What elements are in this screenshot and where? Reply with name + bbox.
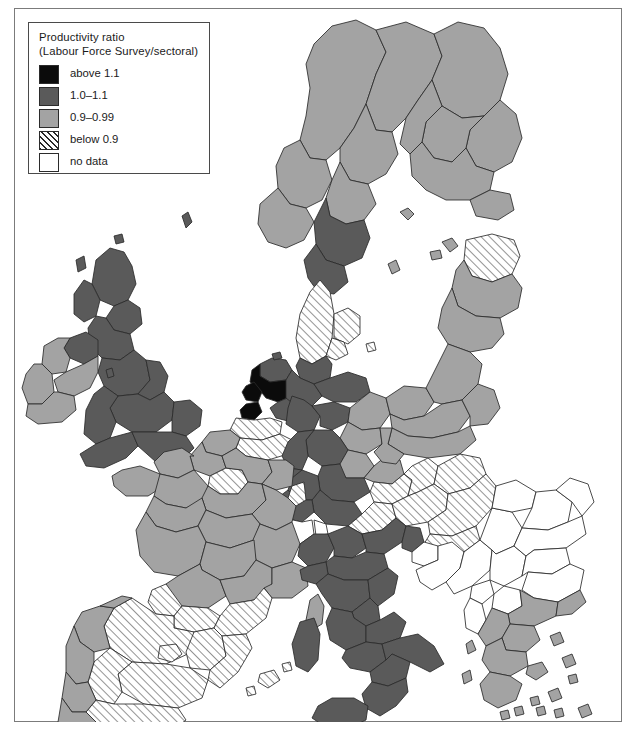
region-greece-island-4 [562, 654, 576, 668]
legend-item-1-0-to-1-1: 1.0–1.1 [39, 85, 207, 107]
legend-item-above-1-1: above 1.1 [39, 63, 207, 85]
region-north-sea-island [272, 352, 282, 360]
region-balearics-menorca [282, 662, 292, 672]
region-shetland [182, 212, 192, 228]
region-greece-island-11 [500, 710, 510, 720]
region-sardinia [292, 618, 320, 672]
region-greece-island-2 [462, 670, 472, 684]
legend-swatch-no-data [39, 153, 59, 172]
legend-label-above-1-1: above 1.1 [70, 68, 120, 79]
region-greece-island-7 [530, 696, 540, 706]
legend-swatch-1-0-to-1-1 [39, 87, 59, 106]
region-balearics-ibiza [246, 686, 256, 696]
region-baltic-islands-2 [430, 250, 442, 260]
legend-item-0-9-to-0-99: 0.9–0.99 [39, 107, 207, 129]
region-sicily [312, 698, 368, 722]
figure-root: Productivity ratio (Labour Force Survey/… [0, 0, 636, 744]
region-wales [84, 386, 118, 444]
legend-label-1-0-to-1-1: 1.0–1.1 [70, 90, 108, 101]
region-greece-island-5 [548, 688, 562, 702]
region-denmark-zealand [334, 308, 360, 344]
region-greece-island-3 [550, 632, 564, 646]
legend-title: Productivity ratio (Labour Force Survey/… [39, 30, 207, 58]
legend-swatch-below-0-9 [39, 131, 59, 150]
legend-label-below-0-9: below 0.9 [70, 134, 118, 145]
region-greece-island-9 [554, 708, 564, 718]
region-greece-island-10 [514, 706, 524, 716]
region-greece-island-1 [466, 640, 476, 654]
region-greece-island-8 [568, 674, 578, 684]
region-orkney [114, 234, 124, 244]
legend-item-no-data: no data [39, 151, 207, 173]
region-balearics-mallorca [258, 670, 280, 688]
map-legend: Productivity ratio (Labour Force Survey/… [28, 22, 210, 174]
region-greece-peloponnese [480, 672, 522, 708]
region-spain-castilla-mancha [118, 662, 208, 708]
region-greece-thessaly [502, 624, 540, 652]
region-aland [400, 208, 414, 220]
legend-item-below-0-9: below 0.9 [39, 129, 207, 151]
region-england-east [172, 400, 202, 436]
region-gotland [388, 260, 400, 274]
region-england-midlands [110, 392, 174, 432]
region-isle-of-man [106, 368, 114, 378]
region-netherlands-zeeland [240, 402, 262, 420]
legend-title-line-1: Productivity ratio [39, 30, 207, 44]
region-hebrides [76, 256, 86, 272]
legend-label-0-9-to-0-99: 0.9–0.99 [70, 112, 114, 123]
region-romania-w [492, 480, 536, 512]
legend-swatch-0-9-to-0-99 [39, 109, 59, 128]
region-greece-attica [526, 662, 548, 680]
region-denmark-bornholm [366, 342, 376, 352]
legend-items: above 1.1 1.0–1.1 0.9–0.99 below 0.9 no … [39, 63, 207, 173]
legend-label-no-data: no data [70, 156, 108, 167]
region-greece-island-12 [536, 706, 546, 716]
region-greece-island-6 [578, 704, 592, 718]
legend-swatch-above-1-1 [39, 65, 59, 84]
region-baltic-islands-1 [442, 238, 458, 252]
legend-title-line-2: (Labour Force Survey/sectoral) [39, 44, 207, 58]
